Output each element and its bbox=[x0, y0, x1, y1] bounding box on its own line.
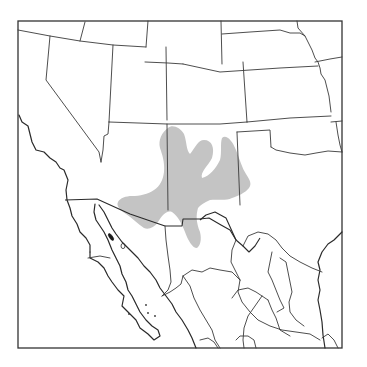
border-ut-co bbox=[166, 47, 167, 120]
border-ca-nv bbox=[46, 36, 101, 162]
rio-grande-lower bbox=[200, 212, 236, 240]
border-durango-south bbox=[232, 288, 268, 300]
border-mo-ar bbox=[331, 121, 342, 122]
border-wy-ne bbox=[221, 21, 222, 64]
border-nuevo-leon-tamaulipas bbox=[280, 258, 304, 326]
range-map bbox=[0, 0, 367, 367]
border-coahuila-north bbox=[243, 232, 322, 272]
border-ok-tx bbox=[271, 147, 342, 155]
border-ne-ks bbox=[183, 64, 318, 72]
island-small-2 bbox=[147, 312, 149, 314]
border-sd-ne bbox=[222, 30, 305, 36]
island-small-1 bbox=[145, 304, 147, 306]
border-zacatecas-jalisco bbox=[243, 296, 262, 348]
pacific-coast-california bbox=[19, 115, 90, 252]
species-range bbox=[117, 126, 250, 248]
islands bbox=[107, 233, 156, 317]
border-ar-ok bbox=[336, 122, 342, 152]
border-sinaloa-durango bbox=[183, 276, 220, 348]
border-nv-az bbox=[101, 122, 109, 162]
range-area bbox=[117, 126, 250, 248]
border-sonora-chihuahua bbox=[162, 226, 171, 296]
border-id-wy bbox=[146, 21, 148, 47]
island-small-3 bbox=[154, 315, 156, 317]
mexican-state-borders bbox=[88, 226, 338, 348]
border-aguascalientes bbox=[236, 336, 256, 348]
border-ut-az-co-nm bbox=[109, 122, 247, 124]
map-canvas bbox=[0, 0, 367, 367]
border-chihuahua-coahuila bbox=[231, 240, 240, 280]
border-co-ks bbox=[243, 62, 247, 122]
border-bc-bcs bbox=[88, 256, 110, 258]
border-ok-panhandle bbox=[237, 130, 271, 147]
border-wy-ut-co bbox=[145, 62, 183, 64]
border-id-or bbox=[80, 22, 85, 41]
island-small-4 bbox=[128, 313, 130, 315]
border-nv-ut bbox=[109, 45, 113, 122]
border-chihuahua-durango bbox=[183, 268, 240, 280]
border-coahuila-nuevo-leon bbox=[268, 252, 284, 312]
island-tiburon bbox=[121, 243, 125, 248]
border-ks-ok bbox=[247, 116, 331, 122]
border-ia-mo bbox=[315, 57, 342, 62]
gulf-coast-texas bbox=[318, 232, 342, 348]
